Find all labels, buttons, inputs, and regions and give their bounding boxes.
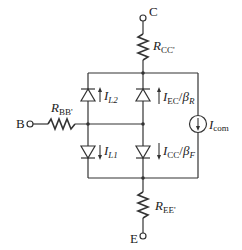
current-source [190,116,207,133]
label-reverse: IEC/βR [162,89,195,106]
diode-leak2 [81,89,95,101]
current-source-label: Icom [208,117,229,133]
collector-resistor [138,34,148,60]
base-terminal [27,121,33,127]
collector-terminal [140,15,146,21]
diode-reverse [136,89,150,101]
label-leak2: IL2 [103,88,118,105]
diode-forward [136,146,150,158]
collector-resistor-label: RCC' [152,38,175,55]
current-arrow-reverse-icon [157,87,161,104]
emitter-label: E [130,231,138,246]
current-arrow-forward-icon [157,143,161,160]
base-resistor-label: RBB' [50,100,73,117]
emitter-terminal [140,233,146,239]
emitter-resistor [138,192,148,218]
bjt-equivalent-circuit: C RCC' IL2 IEC/βR B RBB' [0,0,242,250]
base-resistor [48,119,75,129]
current-arrow-leak1-icon [98,145,102,160]
base-node-left [86,122,90,126]
base-node-middle [141,122,145,126]
base-label: B [16,116,25,131]
collector-label: C [149,4,158,19]
current-arrow-leak2-icon [98,87,102,102]
label-leak1: IL1 [103,143,118,160]
emitter-resistor-label: REE' [154,198,176,215]
diode-leak1 [81,146,95,158]
label-forward: ICC/βF [162,143,195,160]
